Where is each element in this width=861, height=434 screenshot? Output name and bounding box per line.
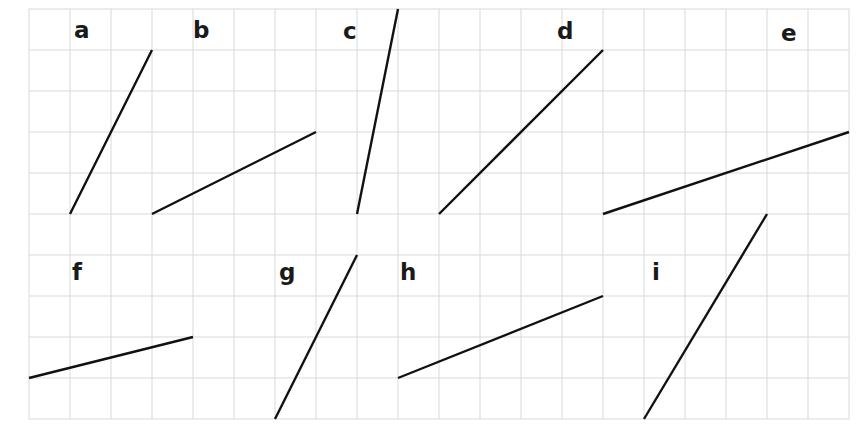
segment-labels: abcdefghi (72, 17, 797, 285)
segment-label-i: i (652, 259, 660, 285)
grid-diagram: abcdefghi (0, 0, 861, 434)
line-segment-i (644, 214, 767, 419)
segment-label-g: g (279, 259, 295, 285)
segment-label-f: f (72, 259, 83, 285)
segment-label-d: d (557, 18, 573, 44)
segment-label-a: a (74, 17, 90, 43)
segment-label-h: h (400, 259, 416, 285)
segment-label-b: b (193, 17, 209, 43)
line-segment-c (357, 9, 398, 214)
segment-label-c: c (343, 18, 357, 44)
segment-label-e: e (781, 20, 797, 46)
